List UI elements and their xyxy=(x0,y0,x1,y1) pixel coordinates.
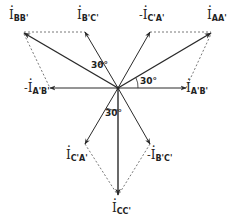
label-symbol: I xyxy=(207,8,212,22)
label-i-bc: IB'C' xyxy=(77,9,99,23)
label-subscript: A'B' xyxy=(32,87,49,96)
label-i-ca: IC'A' xyxy=(66,149,88,163)
label-symbol: I xyxy=(112,201,117,215)
label-i-aa: IAA' xyxy=(207,9,227,23)
angle-arc-right xyxy=(136,78,138,88)
phasor-neg-i-bc xyxy=(118,88,150,144)
label-subscript: AA' xyxy=(212,14,227,23)
label-symbol: I xyxy=(151,148,156,162)
label-neg-i-ca: -IC'A' xyxy=(139,9,164,23)
label-i-bb: IBB' xyxy=(9,9,28,23)
label-symbol: I xyxy=(28,81,33,95)
angle-label-upper: 30° xyxy=(91,60,108,70)
label-subscript: C'A' xyxy=(71,154,88,163)
label-subscript: B'C' xyxy=(155,154,172,163)
label-subscript: CC' xyxy=(117,207,131,216)
label-neg-i-bc: -IB'C' xyxy=(147,149,172,163)
label-subscript: BB' xyxy=(14,14,29,23)
dashed-cc-left xyxy=(85,144,117,194)
label-subscript: A'B' xyxy=(191,87,208,96)
label-subscript: C'A' xyxy=(147,14,164,23)
label-symbol: I xyxy=(9,8,14,22)
label-symbol: I xyxy=(66,148,71,162)
dashed-cc-right xyxy=(119,144,150,194)
angle-label-right: 30° xyxy=(140,76,157,86)
label-i-cc: ICC' xyxy=(112,202,131,216)
origin-point xyxy=(116,86,119,89)
label-symbol: I xyxy=(186,81,191,95)
label-subscript: B'C' xyxy=(82,14,99,23)
label-symbol: I xyxy=(143,8,148,22)
label-symbol: I xyxy=(77,8,82,22)
phasor-i-aa xyxy=(118,33,211,88)
label-i-ab: IA'B' xyxy=(186,82,208,96)
angle-label-bottom: 30° xyxy=(105,108,122,118)
label-neg-i-ab: -IA'B' xyxy=(24,82,50,96)
